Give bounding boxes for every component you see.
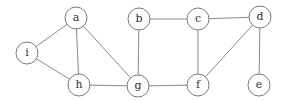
node-i: i	[16, 42, 38, 64]
node-f: f	[187, 74, 209, 96]
node-d: d	[249, 6, 271, 28]
node-label: h	[75, 78, 82, 91]
graph-diagram: abcdefghi	[0, 0, 284, 101]
node-e: e	[248, 74, 270, 96]
node-label: e	[256, 78, 263, 91]
node-a: a	[65, 7, 87, 29]
node-g: g	[127, 75, 149, 97]
edge-f-d	[198, 17, 260, 85]
node-c: c	[187, 8, 209, 30]
node-label: a	[73, 11, 80, 24]
node-label: g	[134, 79, 141, 92]
node-b: b	[128, 8, 150, 30]
nodes-layer: abcdefghi	[16, 6, 271, 97]
node-label: d	[256, 10, 263, 23]
node-h: h	[68, 74, 90, 96]
node-label: i	[25, 46, 29, 59]
node-label: b	[135, 12, 142, 25]
node-label: c	[195, 12, 201, 25]
